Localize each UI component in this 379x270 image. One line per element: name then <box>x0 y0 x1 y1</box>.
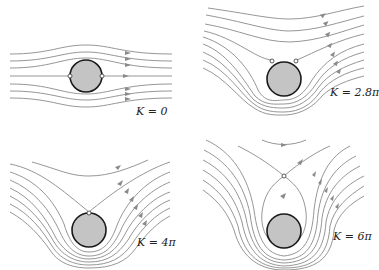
panel-label-k0: K = 0 <box>136 105 167 118</box>
panel-k6pi <box>203 140 364 270</box>
cylinder <box>70 60 102 92</box>
flow-arrows <box>280 143 339 209</box>
panel-k0 <box>10 45 172 107</box>
cylinder <box>72 213 106 247</box>
stagnation-point <box>282 174 286 178</box>
stagnation-point <box>87 211 91 215</box>
panel-label-k4pi: K = 4π <box>137 236 176 249</box>
stagnation-point <box>100 74 104 78</box>
stagnation-point <box>270 59 274 63</box>
cylinder <box>267 214 301 248</box>
stagnation-point <box>294 59 298 63</box>
panel-label-k6pi: K = 6π <box>333 230 372 243</box>
panel-k4pi <box>10 160 170 268</box>
stagnation-point <box>68 74 72 78</box>
panel-label-k2-8pi: K = 2.8π <box>330 86 379 99</box>
cylinder <box>267 62 301 96</box>
